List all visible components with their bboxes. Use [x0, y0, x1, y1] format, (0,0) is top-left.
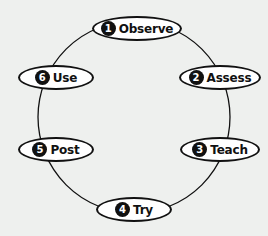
step-post: 5 Post — [18, 137, 94, 162]
step-number-badge: 4 — [115, 202, 130, 217]
step-try: 4 Try — [96, 197, 172, 222]
step-number-badge: 3 — [192, 142, 207, 157]
step-number-badge: 6 — [35, 70, 50, 85]
step-label: Teach — [210, 143, 248, 157]
step-assess: 2 Assess — [179, 65, 261, 90]
step-number-badge: 1 — [101, 21, 116, 36]
step-label: Observe — [119, 22, 174, 36]
step-number-badge: 5 — [32, 142, 47, 157]
step-number-badge: 2 — [189, 70, 204, 85]
step-label: Post — [50, 143, 79, 157]
step-label: Try — [133, 203, 153, 217]
step-label: Assess — [207, 71, 252, 85]
step-teach: 3 Teach — [180, 137, 260, 162]
step-label: Use — [53, 71, 77, 85]
step-use: 6 Use — [18, 65, 94, 90]
step-observe: 1 Observe — [92, 16, 182, 41]
